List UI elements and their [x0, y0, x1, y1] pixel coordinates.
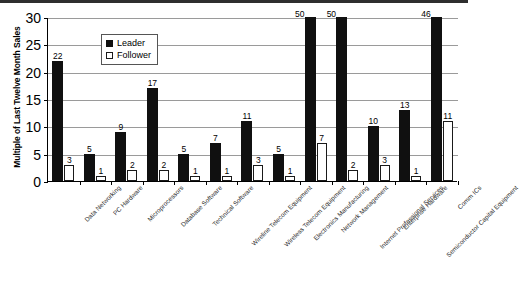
bar-value-label: 50: [295, 9, 304, 19]
bar-leader: 5: [273, 154, 284, 181]
bar-value-label: 3: [382, 155, 387, 165]
x-tick-mark: [458, 181, 459, 185]
bar-value-label: 3: [256, 155, 261, 165]
bar-follower: 2: [159, 170, 169, 181]
bar-value-label: 2: [351, 160, 356, 170]
bar-value-label: 11: [243, 111, 252, 121]
x-axis-label: Enterprise Hardware: [402, 184, 449, 231]
y-tick-label: 0: [33, 174, 41, 190]
bar-value-label: 50: [327, 9, 336, 19]
bar-group: 51: [174, 18, 206, 181]
legend-item-leader: Leader: [106, 37, 151, 49]
y-axis-title: Multiple of Last Twelve Month Sales: [10, 17, 24, 177]
y-tick-label: 20: [25, 65, 41, 81]
y-tick-label: 10: [25, 119, 41, 135]
bar-leader: 46: [431, 17, 442, 181]
legend-swatch-follower-icon: [106, 52, 113, 59]
bar-follower: 2: [127, 170, 137, 181]
y-tick-label: 30: [25, 10, 41, 26]
bar-value-label: 13: [400, 100, 409, 110]
x-axis-label: Microprocessors: [146, 184, 185, 223]
x-axis-label: Comm ICs: [456, 184, 483, 211]
bar-value-label: 22: [53, 51, 62, 61]
bar-value-label: 5: [276, 144, 281, 154]
bar-group: 51: [269, 18, 301, 181]
bar-leader: 7: [210, 143, 221, 181]
y-tick-mark: [44, 182, 48, 183]
bar-value-label: 17: [148, 78, 157, 88]
bar-follower: 7: [317, 143, 327, 181]
bar-value-label: 10: [368, 116, 377, 126]
bar-leader: 50: [336, 17, 347, 181]
bar-value-label: 7: [319, 133, 324, 143]
x-axis-label: Wireline Telecom Equipment: [251, 184, 314, 247]
bar-follower: 3: [64, 165, 74, 181]
x-axis-labels: Data NetworkingPC HardwareMicroprocessor…: [47, 184, 457, 280]
bar-follower: 3: [253, 165, 263, 181]
bar-follower: 1: [285, 176, 295, 181]
legend-swatch-leader-icon: [106, 40, 113, 47]
bar-value-label: 9: [118, 122, 123, 132]
bar-leader: 17: [147, 88, 158, 181]
legend-label-leader: Leader: [117, 38, 145, 48]
y-tick-label: 25: [25, 37, 41, 53]
legend-item-follower: Follower: [106, 49, 151, 61]
bar-group: 4611: [426, 18, 458, 181]
bar-value-label: 1: [225, 166, 230, 176]
bar-follower: 3: [380, 165, 390, 181]
bar-leader: 13: [399, 110, 410, 181]
bar-follower: 1: [411, 176, 421, 181]
bar-follower: 11: [443, 121, 453, 181]
bar-group: 507: [300, 18, 332, 181]
bar-chart: Multiple of Last Twelve Month Sales 0510…: [0, 3, 468, 281]
bar-value-label: 5: [182, 144, 187, 154]
bar-value-label: 1: [193, 166, 198, 176]
y-tick-label: 5: [33, 147, 41, 163]
bar-value-label: 7: [213, 133, 218, 143]
bar-leader: 5: [178, 154, 189, 181]
bar-value-label: 11: [443, 111, 452, 121]
bar-group: 103: [363, 18, 395, 181]
bar-follower: 1: [190, 176, 200, 181]
bar-value-label: 2: [162, 160, 167, 170]
bar-value-label: 46: [421, 9, 430, 19]
bar-leader: 9: [115, 132, 126, 181]
bar-value-label: 1: [288, 166, 293, 176]
y-tick-label: 15: [25, 92, 41, 108]
bar-value-label: 3: [67, 155, 72, 165]
bar-follower: 2: [348, 170, 358, 181]
bar-value-label: 1: [98, 166, 103, 176]
bar-group: 113: [237, 18, 269, 181]
bar-group: 223: [48, 18, 80, 181]
bar-group: 502: [332, 18, 364, 181]
bar-leader: 22: [52, 61, 63, 181]
bar-leader: 5: [84, 154, 95, 181]
bar-value-label: 5: [87, 144, 92, 154]
bar-follower: 1: [222, 176, 232, 181]
bar-leader: 10: [368, 126, 379, 181]
bar-value-label: 2: [130, 160, 135, 170]
legend-label-follower: Follower: [117, 50, 151, 60]
bar-leader: 50: [305, 17, 316, 181]
x-axis-label: Data Networking: [83, 184, 122, 223]
bar-follower: 1: [96, 176, 106, 181]
legend: Leader Follower: [101, 34, 158, 65]
bar-group: 71: [206, 18, 238, 181]
bar-value-label: 1: [414, 166, 419, 176]
x-axis-label: Semiconductor Capital Equipment: [444, 184, 518, 258]
bar-group: 131: [395, 18, 427, 181]
bar-leader: 11: [241, 121, 252, 181]
